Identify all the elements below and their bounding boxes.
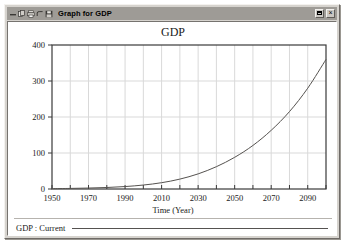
print-icon[interactable] <box>27 10 35 18</box>
window-titlebar[interactable]: Graph for GDP × <box>7 7 337 20</box>
x-tick-label: 2070 <box>263 193 280 203</box>
y-tick-label: 300 <box>32 76 45 86</box>
window-title: Graph for GDP <box>58 9 112 18</box>
x-tick-label: 2010 <box>153 193 170 203</box>
copy-icon[interactable] <box>18 10 26 18</box>
chart-legend: GDP : Current <box>16 221 332 235</box>
x-tick-label: 2050 <box>226 193 243 203</box>
y-tick-label: 200 <box>32 112 45 122</box>
y-tick-label: 100 <box>32 148 45 158</box>
restore-button[interactable] <box>315 9 324 18</box>
y-tick-label: 400 <box>32 40 45 50</box>
chart-client-area: GDP 0100200300400 1950197019902010203020… <box>7 21 337 236</box>
x-tick-label: 1950 <box>44 193 61 203</box>
close-button[interactable]: × <box>326 9 335 18</box>
plot-area: 0100200300400 19501970199020102030205020… <box>8 22 337 236</box>
close-icon: × <box>327 9 334 16</box>
graph-window: Graph for GDP × GDP <box>4 4 340 239</box>
y-tick-labels: 0100200300400 <box>32 40 45 194</box>
titlebar-icon-group <box>7 10 53 18</box>
legend-line-sample <box>72 228 328 229</box>
x-tick-label: 1990 <box>117 193 134 203</box>
x-tick-label: 2090 <box>299 193 316 203</box>
save-icon[interactable] <box>45 10 53 18</box>
x-axis-title: Time (Year) <box>8 205 337 215</box>
plot-svg: 0100200300400 19501970199020102030205020… <box>8 22 337 236</box>
desktop-background: Graph for GDP × GDP <box>0 0 346 249</box>
restore-icon <box>317 11 322 15</box>
legend-item-label: GDP : Current <box>16 223 65 233</box>
x-tick-label: 2030 <box>190 193 207 203</box>
x-tick-label: 1970 <box>80 193 97 203</box>
gdp-current-curve <box>52 59 326 188</box>
x-tick-labels: 19501970199020102030205020702090 <box>44 193 317 203</box>
minimize-icon[interactable] <box>9 10 17 18</box>
undo-icon[interactable] <box>36 10 44 18</box>
legend-separator <box>14 218 332 219</box>
window-control-group: × <box>315 9 337 18</box>
